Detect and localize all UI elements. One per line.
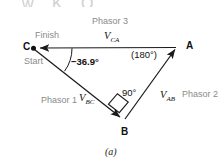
vertex-a-label: A (186, 41, 193, 51)
finish-marker-label: Finish (35, 31, 59, 40)
vertex-b-label: B (121, 127, 128, 137)
phasor-2-label: Phasor 2 (182, 90, 218, 99)
phasor-1-symbol: VBC (79, 93, 94, 106)
phasor-3-vector-line (40, 48, 176, 49)
phasor-1-symbol-subscript: BC (85, 98, 94, 106)
phasor-2-symbol: VAB (160, 90, 175, 103)
angle-at-a-label: (180°) (131, 50, 157, 60)
phasor-3-symbol: VCA (104, 31, 119, 44)
angle-at-b-label: 90° (122, 88, 136, 98)
vertex-c-dot (31, 46, 36, 51)
phasor-1-label: Phasor 1 (41, 96, 77, 105)
phasor-diagram-figure: w K O Phasor 3 VCA Finish C Start −36.9°… (0, 0, 224, 165)
vertex-c-label: C (23, 42, 30, 52)
phasor-3-label: Phasor 3 (92, 17, 128, 26)
phasor-2-symbol-subscript: AB (166, 95, 175, 103)
angle-at-c-label: −36.9° (71, 57, 99, 67)
figure-caption: (a) (105, 147, 117, 157)
start-marker-label: Start (24, 57, 43, 66)
phasor-3-symbol-subscript: CA (110, 36, 119, 44)
